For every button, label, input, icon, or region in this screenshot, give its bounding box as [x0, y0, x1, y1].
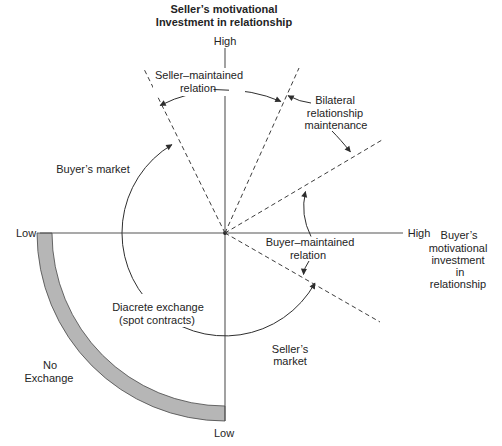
buyer-axis-name-line: Buyer’s: [441, 229, 478, 241]
axis-label-low-bottom: Low: [214, 427, 234, 439]
label-no-exchange: Exchange: [25, 372, 74, 384]
label-discrete-exchange: Diacrete exchange: [112, 301, 204, 313]
arrow-buyer-maintained-to-lower-ray: [304, 261, 310, 275]
dashed-ray-upper-shallow-right: [225, 140, 382, 233]
label-bilateral-relationship-maintenance: relationship: [307, 107, 363, 119]
label-discrete-exchange: (spot contracts): [119, 314, 195, 326]
buyer-axis-name-line: motivational: [429, 242, 488, 254]
label-bilateral-relationship-maintenance: Bilateral: [315, 94, 355, 106]
axis-label-high-right: High: [408, 227, 431, 239]
arrow-bilateral-to-shallow-ray: [332, 131, 351, 152]
label-buyer-maintained-relation: relation: [290, 249, 326, 261]
label-sellers-market: Seller’s: [272, 343, 309, 355]
diagram-title-line1: Seller’s motivational: [171, 3, 278, 15]
label-seller-maintained-relation: relation: [180, 82, 216, 94]
label-bilateral-relationship-maintenance: maintenance: [305, 119, 368, 131]
diagram-title-line2: Investment in relationship: [156, 16, 293, 28]
label-no-exchange: No: [43, 359, 57, 371]
axis-label-low-left: Low: [16, 227, 36, 239]
label-buyers-market: Buyer’s market: [56, 163, 130, 175]
arrow-buyer-maintained-to-upper-ray: [304, 192, 311, 237]
buyer-axis-name-line: in: [456, 266, 465, 278]
label-seller-maintained-relation: Seller–maintained: [155, 69, 243, 81]
arrow-bilateral-to-steep-ray: [288, 96, 311, 103]
label-buyer-maintained-relation: Buyer–maintained: [266, 236, 355, 248]
diagram-canvas: Seller’s motivational Investment in rela…: [0, 0, 502, 446]
buyer-axis-name-line: relationship: [430, 278, 486, 290]
relationship-exchange-figure: Seller’s motivational Investment in rela…: [0, 0, 502, 446]
axis-label-high-top: High: [214, 35, 237, 47]
label-sellers-market: market: [273, 355, 307, 367]
buyer-axis-name-line: investment: [431, 254, 484, 266]
